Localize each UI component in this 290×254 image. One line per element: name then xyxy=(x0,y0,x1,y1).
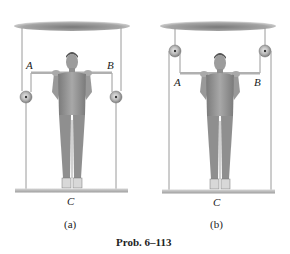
caption-b: (b) xyxy=(210,218,223,231)
problem-label: Prob. 6–113 xyxy=(116,236,172,248)
label-c: C xyxy=(213,196,221,208)
panel-a: A B C (a) xyxy=(14,21,130,231)
figure-canvas: A B C (a) xyxy=(0,0,290,254)
platform xyxy=(15,189,128,193)
pulley-right xyxy=(110,91,122,103)
panel-b: A B C (b) xyxy=(160,21,276,231)
pulley-right xyxy=(259,45,271,57)
ceiling xyxy=(160,21,276,31)
label-a: A xyxy=(173,76,181,88)
person xyxy=(200,53,240,189)
platform xyxy=(162,190,275,194)
label-c: C xyxy=(67,195,75,207)
pulley-left xyxy=(20,91,32,103)
label-b: B xyxy=(254,76,261,88)
pulley-left xyxy=(169,45,181,57)
label-a: A xyxy=(25,59,33,71)
label-b: B xyxy=(107,59,114,71)
ceiling xyxy=(14,21,130,31)
person xyxy=(52,52,92,188)
caption-a: (a) xyxy=(64,218,77,231)
